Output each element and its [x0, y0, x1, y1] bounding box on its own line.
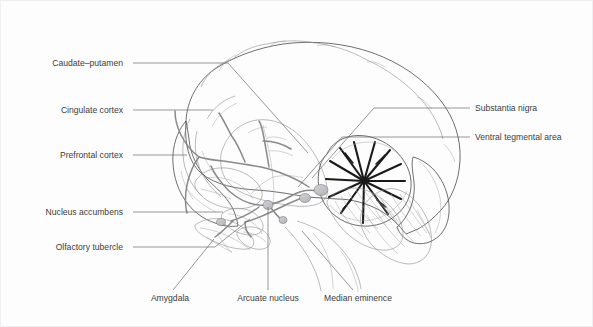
nucleus-accumbens-structure — [221, 208, 263, 235]
label-substantia-nigra: Substantia nigra — [475, 103, 537, 113]
cerebellar-folia — [326, 142, 405, 223]
label-olfactory-tubercle: Olfactory tubercle — [56, 242, 124, 252]
label-amygdala: Amygdala — [151, 293, 189, 303]
dopamine-pathways — [175, 111, 328, 237]
olfactory-node — [217, 219, 226, 226]
label-caudate-putamen: Caudate–putamen — [52, 58, 123, 68]
label-nucleus-accumbens: Nucleus accumbens — [46, 207, 123, 217]
label-ventral-tegmental-area: Ventral tegmental area — [475, 132, 562, 142]
amygdala-structure — [237, 227, 270, 249]
leader-caudate-putamen — [133, 63, 308, 153]
median-eminence-node — [279, 217, 287, 224]
label-arcuate-nucleus: Arcuate nucleus — [237, 293, 299, 303]
brain-pathway-diagram: Caudate–putamen Cingulate cortex Prefron… — [0, 0, 593, 327]
leader-median-eminence — [302, 231, 353, 290]
substantia-nigra-node — [314, 185, 328, 196]
label-cingulate-cortex: Cingulate cortex — [61, 105, 124, 115]
pallidum-structure — [195, 168, 262, 209]
label-median-eminence: Median eminence — [324, 293, 392, 303]
cerebellum — [318, 135, 431, 264]
leader-olfactory-tubercle — [133, 219, 250, 247]
diagram-canvas: Caudate–putamen Cingulate cortex Prefron… — [1, 1, 593, 327]
leader-lines — [133, 63, 470, 290]
label-prefrontal-cortex: Prefrontal cortex — [60, 150, 124, 160]
ventral-tegmental-area-node — [300, 194, 311, 203]
